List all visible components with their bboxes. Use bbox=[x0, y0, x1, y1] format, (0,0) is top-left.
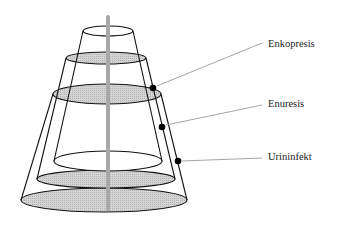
outer-cone-base bbox=[21, 188, 187, 212]
label-enuresis: Enuresis bbox=[268, 98, 304, 109]
label-enkopresis: Enkopresis bbox=[268, 38, 315, 49]
urininfekt-marker-dot bbox=[175, 158, 182, 165]
label-urininfekt: Urininfekt bbox=[268, 151, 312, 162]
enuresis-marker-dot bbox=[159, 124, 166, 131]
central-axis bbox=[106, 15, 110, 211]
nested-cone-diagram: Enkopresis Enuresis Urininfekt bbox=[0, 0, 340, 228]
enkopresis-marker-dot bbox=[150, 85, 157, 92]
